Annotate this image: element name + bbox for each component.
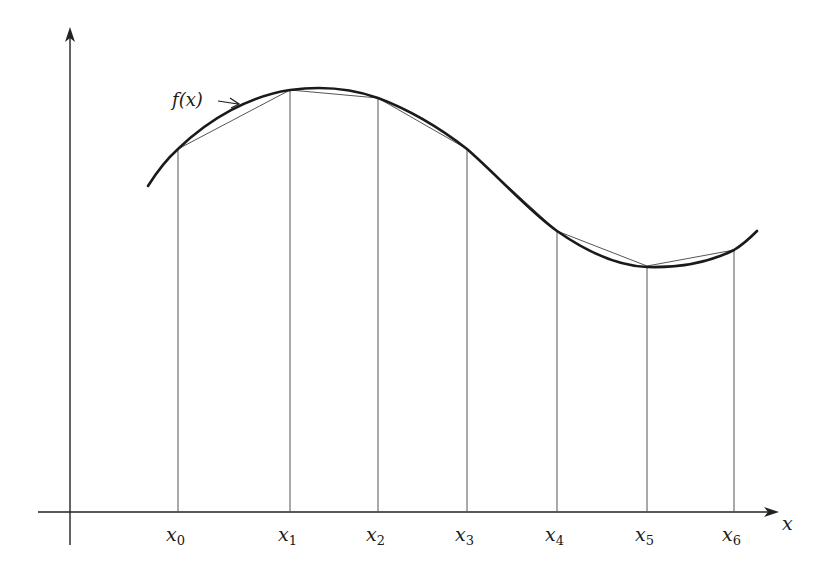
- tick-label-x5: x5: [635, 525, 654, 547]
- function-label: f(x): [172, 89, 203, 110]
- tick-label-x0: x0: [166, 525, 185, 547]
- function-curve: [148, 88, 757, 267]
- x-axis-label: x: [782, 512, 793, 534]
- ordinates: [178, 90, 734, 512]
- trapezoid-diagram: [0, 0, 827, 563]
- tick-label-x1: x1: [278, 525, 297, 547]
- trapezoid-chords: [178, 90, 734, 266]
- tick-label-x2: x2: [366, 525, 385, 547]
- tick-label-x3: x3: [455, 525, 474, 547]
- tick-label-x4: x4: [545, 525, 564, 547]
- tick-label-x6: x6: [722, 525, 741, 547]
